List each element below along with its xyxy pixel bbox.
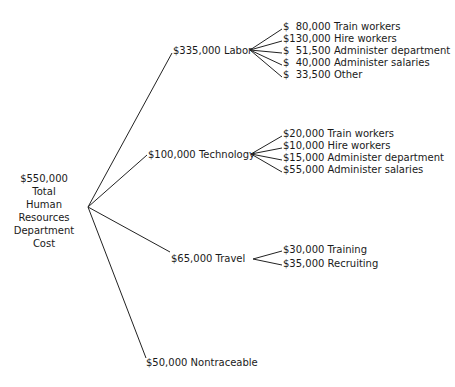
root-line: Resources: [2, 211, 86, 224]
root-line: Cost: [2, 237, 86, 250]
branch-nontraceable: $50,000 Nontraceable: [146, 357, 258, 369]
leaf-tech-admin-dept: $15,000 Administer department: [283, 152, 444, 164]
root-line: $550,000: [2, 172, 86, 185]
root-line: Total: [2, 185, 86, 198]
leaf-travel-training: $30,000 Training: [283, 244, 367, 256]
root-node-total-cost: $550,000 Total Human Resources Departmen…: [2, 172, 86, 250]
leaf-labor-admin-dept: $ 51,500 Administer department: [283, 45, 450, 57]
leaf-tech-admin-salaries: $55,000 Administer salaries: [283, 164, 423, 176]
leaf-tech-train: $20,000 Train workers: [283, 128, 394, 140]
leaf-labor-hire: $130,000 Hire workers: [283, 33, 397, 45]
root-line: Department: [2, 224, 86, 237]
leaf-labor-train: $ 80,000 Train workers: [283, 21, 400, 33]
leaf-tech-hire: $10,000 Hire workers: [283, 140, 390, 152]
leaf-travel-recruiting: $35,000 Recruiting: [283, 258, 378, 270]
leaf-labor-admin-salaries: $ 40,000 Administer salaries: [283, 57, 430, 69]
leaf-labor-other: $ 33,500 Other: [283, 69, 362, 81]
branch-labor: $335,000 Labor: [173, 45, 252, 57]
branch-technology: $100,000 Technology: [148, 149, 255, 161]
root-line: Human: [2, 198, 86, 211]
branch-travel: $65,000 Travel: [171, 253, 245, 265]
